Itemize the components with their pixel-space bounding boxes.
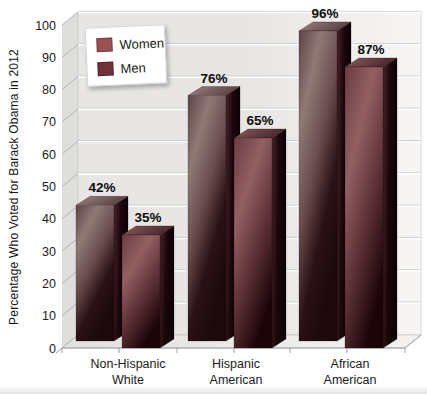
y-axis-title: Percentage Who Voted for Barack Obama in…	[7, 49, 21, 325]
bar-chart-canvas: 010203040506070809010042%76%96%35%65%87%…	[0, 0, 427, 394]
value-label-women-hispanic-american: 76%	[200, 71, 227, 86]
bar-men-hispanic-american-front	[234, 138, 272, 348]
y-tick-label: 50	[42, 180, 56, 194]
bar-chart-figure: 010203040506070809010042%76%96%35%65%87%…	[0, 0, 427, 394]
origin-tick	[56, 348, 62, 353]
legend-item-women: Women	[96, 36, 159, 53]
value-label-men-african-american: 87%	[357, 42, 384, 57]
y-tick-label: 60	[42, 148, 56, 162]
bar-men-non-hispanic-white-front	[122, 235, 160, 348]
y-tick-label: 80	[42, 83, 56, 97]
legend: Women Men	[85, 24, 167, 86]
value-label-women-non-hispanic-white: 42%	[88, 180, 115, 195]
legend-label-men: Men	[120, 61, 146, 75]
value-label-men-non-hispanic-white: 35%	[134, 210, 161, 225]
bar-women-african-american-front	[299, 31, 337, 341]
bar-men-african-american-side	[383, 58, 397, 348]
category-label-non-hispanic-white: Non-Hispanic	[90, 357, 165, 371]
y-tick-label: 100	[35, 19, 56, 33]
y-tick-label: 40	[42, 212, 56, 226]
y-tick-label: 20	[42, 277, 56, 291]
page-bottom-shade	[0, 385, 427, 394]
y-tick-label: 90	[42, 51, 56, 65]
women-swatch-icon	[96, 38, 113, 53]
bar-men-african-american-front	[345, 67, 383, 348]
y-tick-label: 0	[49, 342, 56, 356]
category-label-african-american: African	[331, 357, 370, 371]
y-tick-label: 70	[42, 115, 56, 129]
bar-women-hispanic-american-front	[188, 96, 226, 341]
y-tick-label: 10	[42, 309, 56, 323]
y-tick-label: 30	[42, 245, 56, 259]
value-label-women-african-american: 96%	[311, 6, 338, 21]
value-label-men-hispanic-american: 65%	[246, 113, 273, 128]
men-swatch-icon	[97, 62, 114, 77]
bar-men-hispanic-american-side	[272, 129, 286, 348]
bar-men-non-hispanic-white-side	[160, 226, 174, 348]
legend-label-women: Women	[119, 36, 164, 51]
legend-item-men: Men	[97, 60, 160, 77]
category-label-hispanic-american: Hispanic	[212, 357, 260, 371]
bar-women-non-hispanic-white-front	[76, 205, 114, 341]
